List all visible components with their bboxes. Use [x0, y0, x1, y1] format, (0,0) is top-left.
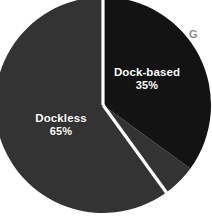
pie-label-dockless: Dockless 65% [22, 112, 100, 137]
pie-chart-svg [0, 0, 212, 222]
pie-chart: Dock-based 35% Dockless 65% G [0, 0, 212, 222]
pie-label-dockless-name: Dockless [22, 112, 100, 125]
pie-label-dock-based-name: Dock-based [108, 66, 186, 79]
pie-label-dock-based-value: 35% [108, 79, 186, 91]
pie-label-dock-based: Dock-based 35% [108, 66, 186, 91]
cropped-edge-glyph: G [189, 29, 198, 40]
pie-label-dockless-value: 65% [22, 125, 100, 137]
